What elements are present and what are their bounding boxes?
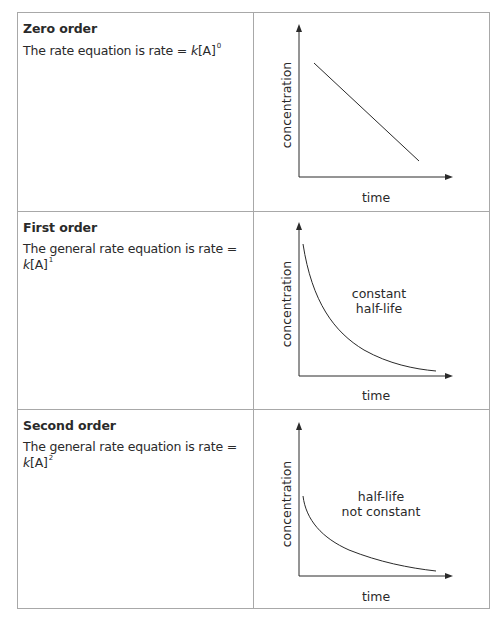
row-heading: Zero order (23, 21, 253, 36)
row-first-order: First order The general rate equation is… (18, 211, 489, 409)
graph-cell: half-life not constant time concentratio… (254, 410, 489, 608)
row-second-order: Second order The general rate equation i… (18, 409, 489, 608)
rate-constant: k (23, 257, 30, 272)
annotation-line-2: half-life (356, 301, 403, 316)
y-axis-label: concentration (279, 62, 294, 149)
second-order-graph: half-life not constant time concentratio… (254, 410, 490, 609)
x-axis-label: time (362, 388, 391, 403)
x-axis-label: time (362, 190, 391, 205)
row-heading: Second order (23, 418, 253, 433)
y-axis-arrow-icon (296, 24, 302, 32)
first-order-graph: constant half-life time concentration (254, 212, 490, 410)
x-axis-arrow-icon (445, 174, 453, 180)
order-exponent: 0 (217, 42, 221, 50)
equation-text: The general rate equation is rate = (23, 439, 237, 454)
graph-cell: time concentration (254, 13, 489, 211)
equation-text: The general rate equation is rate = (23, 241, 237, 256)
description-cell: Second order The general rate equation i… (18, 410, 254, 608)
equation-text: The rate equation is rate = (23, 43, 191, 58)
rate-equation: The general rate equation is rate = k[A]… (23, 241, 253, 272)
rate-equation: The rate equation is rate = k[A]0 (23, 42, 253, 58)
row-heading: First order (23, 220, 253, 235)
concentration-term: [A] (198, 43, 216, 58)
x-axis-label: time (362, 589, 391, 604)
rate-equation: The general rate equation is rate = k[A]… (23, 439, 253, 470)
x-axis-arrow-icon (445, 373, 453, 379)
concentration-term: [A] (30, 257, 48, 272)
concentration-term: [A] (30, 455, 48, 470)
y-axis-label: concentration (279, 461, 294, 548)
row-zero-order: Zero order The rate equation is rate = k… (18, 13, 489, 211)
annotation-line-1: half-life (358, 489, 405, 504)
y-axis-arrow-icon (296, 222, 302, 230)
annotation-line-2: not constant (342, 504, 421, 519)
y-axis-arrow-icon (296, 422, 302, 430)
graph-cell: constant half-life time concentration (254, 212, 489, 409)
zero-order-graph: time concentration (254, 13, 490, 211)
annotation-line-1: constant (352, 286, 406, 301)
description-cell: First order The general rate equation is… (18, 212, 254, 409)
description-cell: Zero order The rate equation is rate = k… (18, 13, 254, 211)
x-axis-arrow-icon (445, 573, 453, 579)
order-exponent: 2 (49, 454, 53, 462)
rate-constant: k (23, 455, 30, 470)
data-line (314, 63, 419, 161)
rate-constant: k (191, 43, 198, 58)
order-exponent: 1 (49, 256, 53, 264)
y-axis-label: concentration (279, 261, 294, 348)
reaction-order-table: Zero order The rate equation is rate = k… (17, 12, 490, 609)
